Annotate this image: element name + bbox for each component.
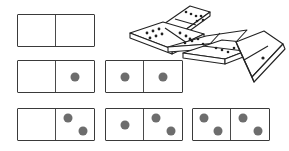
pip bbox=[166, 126, 175, 135]
double-two-left-half bbox=[193, 109, 231, 140]
one-two bbox=[105, 108, 183, 141]
domino-figure bbox=[0, 0, 289, 151]
blank-two-right-half bbox=[56, 109, 94, 140]
pip bbox=[64, 114, 73, 123]
blank-one bbox=[17, 60, 95, 93]
pip bbox=[78, 126, 87, 135]
one-two-right-half bbox=[144, 109, 182, 140]
scattered-domino-pile bbox=[128, 0, 289, 92]
pip bbox=[120, 121, 129, 130]
one-two-left-half bbox=[106, 109, 144, 140]
blank-two-left-half bbox=[18, 109, 56, 140]
pip bbox=[253, 126, 262, 135]
double-blank-left-half bbox=[18, 15, 56, 46]
double-two bbox=[192, 108, 270, 141]
blank-one-left-half bbox=[18, 61, 56, 92]
pip bbox=[71, 72, 80, 81]
pile-domino-tilted bbox=[236, 31, 285, 82]
double-two-right-half bbox=[231, 109, 269, 140]
pip bbox=[152, 114, 161, 123]
pip bbox=[214, 127, 223, 136]
double-blank bbox=[17, 14, 95, 47]
pip bbox=[239, 113, 248, 122]
blank-two bbox=[17, 108, 95, 141]
blank-one-right-half bbox=[56, 61, 94, 92]
double-blank-right-half bbox=[56, 15, 94, 46]
pip bbox=[200, 114, 209, 123]
